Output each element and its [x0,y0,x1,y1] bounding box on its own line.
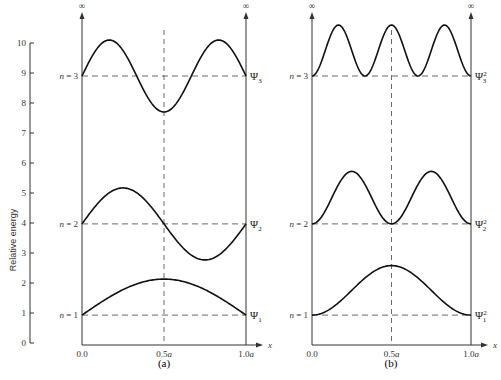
infinity-label: ∞ [309,1,315,11]
x-axis-arrow-icon [481,343,488,348]
x-tick-label: 0.0 [76,349,88,359]
infinity-label: ∞ [79,1,85,11]
energy-axis [30,43,34,343]
wall-arrow-icon [80,12,85,19]
curve-label: Ψ23 [475,70,487,85]
y-tick-label: 7 [22,128,27,138]
x-axis-arrow-icon [256,343,263,348]
y-tick-label: 6 [22,158,27,168]
y-tick-label: 9 [22,68,27,78]
panel-a-wavefunctions: ∞∞x0.00.5a1.0an = 1Ψ1n = 2Ψ2n = 3Ψ3 [59,1,272,359]
level-label: n = 1 [289,310,308,320]
y-tick-label: 0 [22,338,27,348]
figure-canvas: 012345678910 Relative energy ∞∞x0.00.5a1… [0,0,501,380]
panel-b-label: (b) [385,357,398,370]
curve-label: Ψ3 [250,70,262,85]
panel-b-probability-densities: ∞∞x0.00.5a1.0an = 1Ψ21n = 2Ψ22n = 3Ψ23 [289,1,497,359]
y-tick-label: 5 [22,188,27,198]
level-label: n = 3 [289,71,308,81]
curve-label: Ψ2 [250,218,262,233]
y-tick-label: 10 [17,38,27,48]
wall-arrow-icon [469,12,474,19]
curve-label: Ψ1 [250,309,262,324]
panel-a-label: (a) [158,357,171,370]
level-label: n = 3 [59,71,78,81]
infinity-label: ∞ [468,1,474,11]
curve-label: Ψ21 [475,309,487,324]
x-tick-label: 1.0a [463,349,479,359]
psi2-squared-curve [312,171,471,224]
y-tick-label: 3 [22,248,27,258]
x-axis-label: x [267,340,272,350]
y-axis-label: Relative energy [8,208,18,271]
x-tick-label: 0.0 [306,349,318,359]
y-tick-label: 2 [22,278,27,288]
infinity-label: ∞ [243,1,249,11]
y-tick-label: 8 [22,98,27,108]
level-label: n = 2 [289,219,308,229]
y-tick-label: 4 [22,218,27,228]
wall-arrow-icon [244,12,249,19]
level-label: n = 2 [59,219,78,229]
wall-arrow-icon [310,12,315,19]
x-axis-label: x [492,340,497,350]
level-label: n = 1 [59,310,78,320]
y-tick-labels: 012345678910 [17,38,27,348]
curve-label: Ψ22 [475,218,487,233]
y-tick-label: 1 [22,308,27,318]
x-tick-label: 1.0a [238,349,254,359]
